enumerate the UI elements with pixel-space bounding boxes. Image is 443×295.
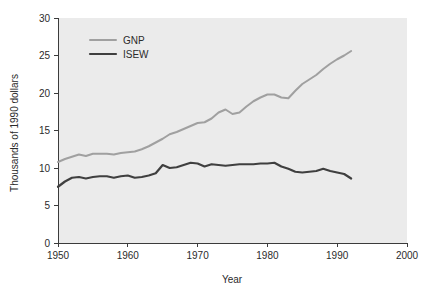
legend-label-gnp: GNP [123,35,145,46]
chart-figure: 051015202530 195019601970198019902000 GN… [0,0,443,295]
y-tick-label-0: 0 [44,238,50,249]
x-axis-title: Year [222,274,243,285]
plot-area-background [58,18,407,243]
x-tick-label-1990: 1990 [326,250,349,261]
y-tick-label-25: 25 [39,50,51,61]
y-tick-label-15: 15 [39,125,51,136]
y-tick-label-20: 20 [39,88,51,99]
y-tick-label-5: 5 [44,200,50,211]
y-tick-label-10: 10 [39,163,51,174]
line-chart: 051015202530 195019601970198019902000 GN… [0,0,443,295]
x-tick-label-1980: 1980 [256,250,279,261]
x-axis-ticks: 195019601970198019902000 [47,243,419,261]
legend-label-isew: ISEW [123,49,149,60]
y-tick-label-30: 30 [39,13,51,24]
y-axis-title: Thousands of 1990 dollars [9,74,20,192]
x-tick-label-1950: 1950 [47,250,70,261]
x-tick-label-1960: 1960 [117,250,140,261]
x-tick-label-1970: 1970 [186,250,209,261]
y-axis-ticks: 051015202530 [39,13,58,249]
x-tick-label-2000: 2000 [396,250,419,261]
